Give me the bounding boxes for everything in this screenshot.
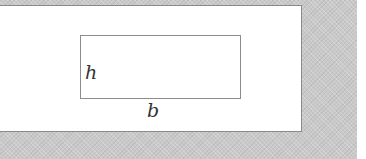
base-label: b xyxy=(147,101,159,120)
height-label: h xyxy=(85,63,97,82)
rectangle-shape xyxy=(80,35,241,99)
